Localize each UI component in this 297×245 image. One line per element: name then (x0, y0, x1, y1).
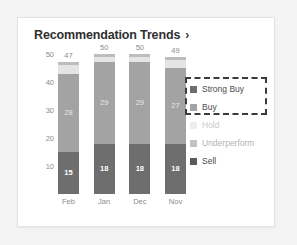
legend-item-label: Underperform (202, 138, 254, 148)
legend-swatch-icon (190, 122, 197, 129)
bar-segment[interactable]: 27 (165, 68, 186, 144)
legend-item-label: Buy (202, 102, 217, 112)
bar-segment[interactable]: 18 (165, 144, 186, 194)
bar-column[interactable]: 502918 (129, 54, 150, 194)
legend-item-underperform[interactable]: Underperform (190, 134, 274, 152)
legend-item-label: Strong Buy (202, 84, 244, 94)
bar-total-label: 47 (64, 51, 72, 60)
legend-swatch-icon (190, 104, 197, 111)
legend-item-buy[interactable]: Buy (190, 98, 274, 116)
card-header[interactable]: Recommendation Trends › (34, 28, 189, 42)
x-axis-tick: Jan (94, 197, 115, 206)
legend-item-strong-buy[interactable]: Strong Buy (190, 80, 274, 98)
recommendation-trends-card: Recommendation Trends › 5040302010 47281… (17, 17, 275, 227)
bar-segment-label: 18 (100, 165, 108, 173)
y-axis-tick: 50 (28, 50, 54, 59)
legend-item-hold[interactable]: Hold (190, 116, 274, 134)
x-axis-tick: Nov (165, 197, 186, 206)
bar-segment[interactable]: 18 (129, 144, 150, 194)
y-axis-tick: 30 (28, 106, 54, 115)
y-axis: 5040302010 (28, 54, 54, 194)
x-axis: FebJanDecNov (58, 197, 186, 206)
bar-column[interactable]: 472815 (58, 54, 79, 194)
y-axis-tick: 40 (28, 78, 54, 87)
y-axis-tick: 10 (28, 162, 54, 171)
legend-item-sell[interactable]: Sell (190, 152, 274, 170)
legend-item-label: Sell (202, 156, 216, 166)
x-axis-tick: Dec (129, 197, 150, 206)
bar-segment[interactable]: 29 (94, 62, 115, 143)
bar-segment-label: 29 (136, 99, 144, 107)
chevron-right-icon[interactable]: › (185, 29, 189, 41)
legend-swatch-icon (190, 158, 197, 165)
bar-total-label: 50 (100, 43, 108, 52)
legend-swatch-icon (190, 86, 197, 93)
bar-segment-label: 28 (64, 109, 72, 117)
page-title: Recommendation Trends (34, 28, 180, 42)
bar-total-label: 49 (171, 46, 179, 55)
screenshot-root: Recommendation Trends › 5040302010 47281… (0, 0, 297, 245)
bar-segment-label: 15 (64, 169, 72, 177)
bar-group: 472815502918502918492718 (58, 54, 186, 194)
bar-total-label: 50 (136, 43, 144, 52)
bar-segment-label: 29 (100, 99, 108, 107)
bar-segment-label: 18 (171, 165, 179, 173)
bar-segment[interactable] (165, 60, 186, 68)
bar-segment[interactable]: 15 (58, 152, 79, 194)
bar-segment[interactable]: 29 (129, 62, 150, 143)
bar-column[interactable]: 502918 (94, 54, 115, 194)
bar-segment[interactable]: 28 (58, 74, 79, 152)
legend-swatch-icon (190, 140, 197, 147)
bar-column[interactable]: 492718 (165, 54, 186, 194)
chart-legend: Strong BuyBuyHoldUnderperformSell (190, 80, 274, 170)
bar-segment-label: 27 (171, 102, 179, 110)
legend-item-label: Hold (202, 120, 219, 130)
bar-segment[interactable]: 18 (94, 144, 115, 194)
bar-segment-label: 18 (136, 165, 144, 173)
y-axis-tick: 20 (28, 134, 54, 143)
bar-segment[interactable] (58, 65, 79, 73)
x-axis-tick: Feb (58, 197, 79, 206)
stacked-bar-chart: 5040302010 472815502918502918492718 FebJ… (28, 54, 188, 216)
